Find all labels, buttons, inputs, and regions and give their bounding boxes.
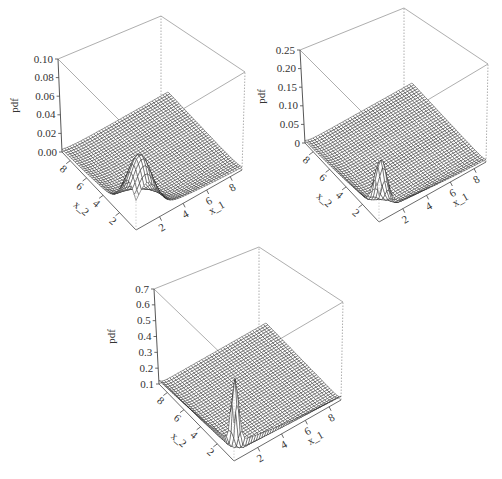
z-tick-label: 0.3	[139, 346, 153, 358]
surface-wireframe	[159, 323, 341, 448]
x2-tick-label: 2	[107, 214, 119, 227]
x2-axis-label: x_2	[169, 430, 189, 450]
x1-tick-label: 8	[471, 172, 482, 185]
box-edge-top-back-right	[404, 8, 488, 64]
z-tick-label: 0.06	[35, 90, 55, 102]
z-tick-label: 0.15	[278, 81, 298, 93]
z-tick-label: 0.02	[37, 127, 56, 139]
z-tick-label: 0.04	[36, 108, 56, 120]
x2-tick-label: 6	[172, 411, 184, 424]
x1-tick-label: 8	[227, 180, 238, 193]
x2-tick-label: 6	[74, 180, 86, 193]
x1-tick-label: 2	[156, 221, 167, 234]
x2-tick-label: 6	[317, 171, 329, 184]
z-tick-label: 0.1	[140, 378, 154, 390]
x1-tick-label: 2	[399, 213, 410, 226]
z-tick-label: 0.08	[35, 71, 55, 83]
x2-tick-label: 2	[205, 445, 217, 458]
surface-plot-2: 00.050.100.150.200.25pdf2468x_12468x_2	[255, 8, 488, 226]
z-tick-label: 0.10	[279, 99, 299, 111]
axis-line-z	[58, 59, 62, 152]
z-tick-label: 0.05	[280, 118, 300, 130]
x1-tick-label: 2	[254, 451, 265, 464]
z-axis-label: pdf	[105, 329, 117, 344]
z-tick-label: 0.10	[34, 53, 54, 65]
x2-tick-label: 8	[301, 153, 313, 166]
box-edge-top-back-left	[300, 8, 404, 50]
box-edge-top-back-left	[58, 16, 161, 59]
z-tick-label: 0.2	[139, 362, 153, 374]
box-edge-right-vertical	[486, 64, 488, 162]
z-axis-label: pdf	[255, 89, 267, 104]
box-edge-right-vertical	[341, 302, 343, 400]
z-tick-label: 0.5	[137, 314, 151, 326]
x1-tick-label: 4	[278, 438, 289, 451]
box-edge-top-back-right	[161, 16, 245, 72]
z-tick-label: 0.4	[138, 330, 152, 342]
z-tick-label: 0.00	[38, 146, 58, 158]
z-tick-label: 0	[295, 137, 301, 149]
x2-tick-label: 2	[350, 206, 362, 219]
chart-canvas: 0.000.020.040.060.080.10pdf2468x_12468x_…	[0, 0, 502, 479]
axis-line-z	[300, 50, 305, 143]
box-edge-right-vertical	[242, 72, 245, 170]
z-axis-label: pdf	[8, 98, 20, 113]
box-edge-top-back-left	[154, 247, 259, 289]
x2-tick-label: 8	[58, 162, 70, 175]
x2-tick-label: 4	[188, 428, 200, 441]
box-edge-top-back-right	[259, 247, 343, 302]
surface-wireframe	[62, 92, 242, 201]
x2-tick-label: 8	[155, 394, 167, 407]
x1-tick-label: 4	[180, 207, 191, 220]
x2-tick-label: 4	[91, 197, 103, 210]
z-tick-label: 0.6	[136, 298, 150, 310]
x1-tick-label: 4	[423, 199, 434, 212]
z-tick-label: 0.20	[277, 62, 297, 74]
z-tick-label: 0.7	[135, 283, 149, 295]
z-tick-label: 0.25	[276, 44, 296, 56]
x1-tick-label: 8	[326, 410, 337, 423]
x2-axis-label: x_2	[314, 190, 334, 210]
surface-wireframe	[305, 83, 486, 202]
x2-axis-label: x_2	[71, 198, 91, 218]
surface-plot-1: 0.000.020.040.060.080.10pdf2468x_12468x_…	[8, 16, 245, 234]
surface-plot-3: 0.10.20.30.40.50.60.7pdf2468x_12468x_2	[105, 247, 343, 465]
x2-tick-label: 4	[334, 188, 346, 201]
